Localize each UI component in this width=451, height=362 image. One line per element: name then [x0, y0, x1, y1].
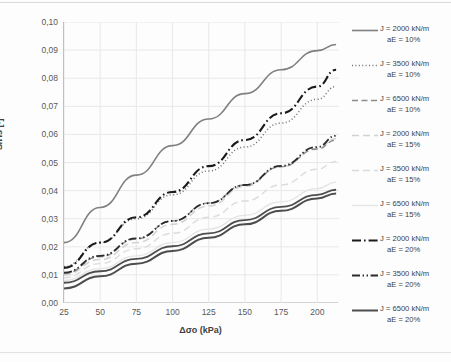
y-tick-label: 0,06: [41, 129, 58, 139]
y-tick-label: 0,08: [41, 73, 58, 83]
legend-item[interactable]: J = 6500 kN/maE = 10%: [352, 94, 451, 120]
y-tick-label: 0,01: [41, 270, 58, 280]
legend-swatch-line-icon: [352, 270, 378, 281]
x-tick-label: 25: [59, 307, 68, 317]
legend-swatch-line-icon: [352, 200, 378, 211]
chart-curve: [64, 182, 336, 280]
legend-swatch-line-icon: [352, 25, 378, 36]
legend-label: J = 3500 kN/maE = 10%: [378, 59, 429, 80]
x-tick-label: 175: [274, 307, 288, 317]
legend-label: J = 2000 kN/maE = 15%: [378, 129, 429, 150]
legend-label-line1: J = 3500 kN/m: [380, 164, 429, 175]
legend-label: J = 3500 kN/maE = 15%: [378, 164, 429, 185]
legend-label: J = 2000 kN/maE = 20%: [378, 234, 429, 255]
legend-item[interactable]: J = 6500 kN/maE = 15%: [352, 199, 451, 225]
legend-label-line1: J = 6500 kN/m: [380, 94, 429, 105]
y-tick-label: 0,04: [41, 186, 58, 196]
legend-label-line1: J = 3500 kN/m: [380, 269, 429, 280]
chart-curve: [64, 44, 336, 242]
plot-area: 0,000,010,020,030,040,050,060,070,080,09…: [63, 22, 338, 303]
legend-label-line1: J = 2000 kN/m: [380, 24, 429, 35]
legend-label-line1: J = 2000 kN/m: [380, 234, 429, 245]
x-tick-label: 150: [238, 307, 252, 317]
legend-item[interactable]: J = 2000 kN/maE = 20%: [352, 234, 451, 260]
chart-figure: S/Hs [-] 0,000,010,020,030,040,050,060,0…: [0, 0, 451, 362]
top-divider: [0, 2, 451, 3]
legend-label: J = 3500 kN/maE = 20%: [378, 269, 429, 290]
bottom-divider: [0, 352, 451, 353]
legend-item[interactable]: J = 3500 kN/maE = 15%: [352, 164, 451, 190]
legend-swatch-line-icon: [352, 60, 378, 71]
y-tick-label: 0,02: [41, 242, 58, 252]
chart-curve: [64, 161, 336, 277]
legend-label-line2: aE = 10%: [380, 35, 429, 46]
legend-label: J = 6500 kN/maE = 10%: [378, 94, 429, 115]
legend-item[interactable]: J = 3500 kN/maE = 20%: [352, 269, 451, 295]
y-tick-label: 0,00: [41, 298, 58, 308]
legend-item[interactable]: J = 2000 kN/maE = 15%: [352, 129, 451, 155]
legend-label-line1: J = 6500 kN/m: [380, 304, 429, 315]
y-tick-label: 0,09: [41, 45, 58, 55]
x-tick-label: 75: [132, 307, 141, 317]
legend-swatch-line-icon: [352, 305, 378, 316]
y-tick-label: 0,03: [41, 214, 58, 224]
x-tick-label: 50: [95, 307, 104, 317]
legend-label-line2: aE = 15%: [380, 140, 429, 151]
legend-label: J = 2000 kN/maE = 10%: [378, 24, 429, 45]
x-tick-label: 200: [310, 307, 324, 317]
y-axis-title: S/Hs [-]: [0, 119, 4, 151]
x-tick-label: 125: [202, 307, 216, 317]
legend-label-line2: aE = 15%: [380, 210, 429, 221]
legend-item[interactable]: J = 2000 kN/maE = 10%: [352, 24, 451, 50]
legend-swatch-line-icon: [352, 235, 378, 246]
legend-label: J = 6500 kN/maE = 20%: [378, 304, 429, 325]
legend-swatch-line-icon: [352, 165, 378, 176]
legend-label-line2: aE = 10%: [380, 105, 429, 116]
y-tick-label: 0,05: [41, 158, 58, 168]
x-tick-label: 100: [165, 307, 179, 317]
legend-label-line1: J = 2000 kN/m: [380, 129, 429, 140]
legend-label-line2: aE = 20%: [380, 315, 429, 326]
curve-layer: [64, 22, 339, 303]
legend-item[interactable]: J = 3500 kN/maE = 10%: [352, 59, 451, 85]
legend-label: J = 6500 kN/maE = 15%: [378, 199, 429, 220]
legend-swatch-line-icon: [352, 130, 378, 141]
legend-label-line2: aE = 20%: [380, 245, 429, 256]
chart-legend: J = 2000 kN/maE = 10%J = 3500 kN/maE = 1…: [352, 24, 451, 339]
legend-item[interactable]: J = 6500 kN/maE = 20%: [352, 304, 451, 330]
y-tick-label: 0,10: [41, 17, 58, 27]
legend-swatch-line-icon: [352, 95, 378, 106]
legend-label-line1: J = 6500 kN/m: [380, 199, 429, 210]
x-axis-title: Δσo (kPa): [63, 325, 338, 335]
legend-label-line1: J = 3500 kN/m: [380, 59, 429, 70]
legend-label-line2: aE = 20%: [380, 280, 429, 291]
legend-label-line2: aE = 15%: [380, 175, 429, 186]
legend-label-line2: aE = 10%: [380, 70, 429, 81]
y-tick-label: 0,07: [41, 101, 58, 111]
